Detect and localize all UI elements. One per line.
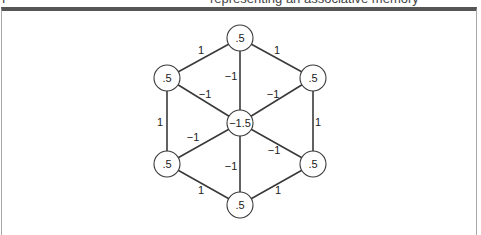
edge-weight-label: −1 [267,88,280,100]
node-lower-right: .5 [300,151,326,177]
network-diagram: 11−1−1−111−1−1−111 .5.5.5−1.5.5.5.5 [0,0,481,235]
node-threshold-label: .5 [235,32,244,44]
edge-weight-label: 1 [315,116,321,128]
node-threshold-label: .5 [235,199,244,211]
node-threshold-label: .5 [308,158,317,170]
edge-weight-label: 1 [157,116,163,128]
edge-weight-label: 1 [198,184,204,196]
node-threshold-label: .5 [308,72,317,84]
edge-weight-label: −1 [225,160,238,172]
node-threshold-label: −1.5 [229,117,251,129]
node-bottom: .5 [227,192,253,218]
edge-weight-label: 1 [198,44,204,56]
node-upper-right: .5 [300,65,326,91]
node-threshold-label: .5 [162,158,171,170]
edge-weight-label: −1 [268,144,281,156]
edge-weight-label: 1 [275,184,281,196]
node-threshold-label: .5 [162,72,171,84]
node-lower-left: .5 [154,151,180,177]
node-top: .5 [227,25,253,51]
edge-weight-label: −1 [187,131,200,143]
node-upper-left: .5 [154,65,180,91]
edge-weight-label: 1 [274,44,280,56]
node-center: −1.5 [227,110,253,136]
edge-weight-label: −1 [225,70,238,82]
edge-weight-label: −1 [199,88,212,100]
